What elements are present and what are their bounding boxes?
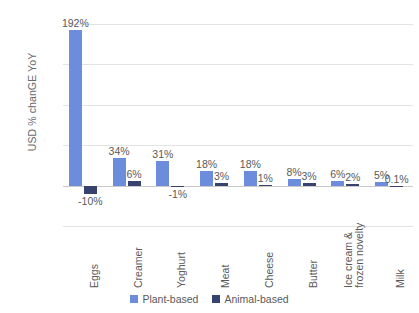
legend-swatch-icon — [212, 295, 220, 303]
bar-animal-based[interactable] — [128, 181, 141, 186]
bar-value-label: 0.1% — [377, 173, 417, 185]
bar-animal-based[interactable] — [171, 186, 184, 187]
bar-plant-based[interactable] — [156, 161, 169, 186]
bar-value-label: 18% — [187, 158, 227, 170]
bar-value-label: -1% — [158, 188, 198, 200]
bar-chart: USD % chanGE YoY 200%150%100%50%0%-50% 1… — [0, 0, 419, 313]
bar-value-label: -10% — [70, 195, 110, 207]
bar-value-label: 192% — [55, 17, 95, 29]
bar-group: 34%6% — [107, 24, 151, 226]
x-axis-category-label: Butter — [308, 260, 319, 288]
x-axis-category-label: Meat — [220, 265, 231, 288]
chart-legend: Plant-basedAnimal-based — [0, 293, 419, 305]
bar-value-label: 34% — [99, 145, 139, 157]
bar-value-label: 18% — [230, 158, 270, 170]
bar-group: 31%-1% — [151, 24, 195, 226]
x-axis-category-label: Cheese — [264, 252, 275, 288]
bar-group: 192%-10% — [63, 24, 107, 226]
bar-group: 8%3% — [282, 24, 326, 226]
legend-swatch-icon — [130, 295, 138, 303]
x-axis-category-label: Milk — [395, 269, 406, 288]
bar-value-label: 3% — [202, 170, 242, 182]
x-axis-category-label: Ice cream &frozen novelty — [343, 223, 365, 288]
bar-value-label: 6% — [114, 168, 154, 180]
bar-group: 18%1% — [238, 24, 282, 226]
bar-animal-based[interactable] — [390, 186, 403, 187]
legend-label: Animal-based — [224, 293, 288, 305]
bar-animal-based[interactable] — [346, 184, 359, 186]
plot-area: 200%150%100%50%0%-50% 192%-10%34%6%31%-1… — [63, 24, 413, 226]
bar-group: 18%3% — [194, 24, 238, 226]
bar-animal-based[interactable] — [84, 186, 97, 194]
bar-group: 5%0.1% — [369, 24, 413, 226]
bar-value-label: 31% — [143, 148, 183, 160]
bar-animal-based[interactable] — [215, 183, 228, 185]
x-axis-category-label: Creamer — [133, 247, 144, 288]
legend-label: Plant-based — [142, 293, 198, 305]
x-axis-category-label: Eggs — [89, 264, 100, 288]
bar-animal-based[interactable] — [303, 183, 316, 185]
legend-item[interactable]: Animal-based — [212, 293, 288, 305]
bar-animal-based[interactable] — [259, 185, 272, 186]
x-axis-category-label: Yoghurt — [176, 252, 187, 288]
y-axis-title: USD % chanGE YoY — [26, 22, 38, 182]
bar-group: 6%2% — [326, 24, 370, 226]
legend-item[interactable]: Plant-based — [130, 293, 198, 305]
bar-plant-based[interactable] — [69, 30, 82, 185]
bar-groups: 192%-10%34%6%31%-1%18%3%18%1%8%3%6%2%5%0… — [63, 24, 413, 226]
x-axis-labels: EggsCreamerYoghurtMeatCheeseButterIce cr… — [63, 228, 413, 290]
